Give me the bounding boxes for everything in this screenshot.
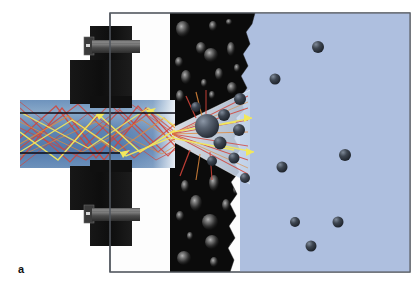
bubble — [181, 180, 189, 192]
medium-sheen — [240, 13, 410, 272]
particle — [312, 41, 324, 53]
bubble — [190, 195, 202, 211]
bubble — [209, 21, 217, 31]
optical-fiber-light-guide — [20, 100, 175, 168]
panel-label-a: a — [18, 264, 24, 275]
bubble — [176, 90, 184, 102]
scientific-diagram-svg — [0, 0, 420, 293]
aqueous-medium-region — [240, 13, 410, 272]
particle — [306, 241, 317, 252]
bubble — [234, 64, 240, 72]
bolt-slot — [86, 212, 90, 215]
bubble — [209, 175, 219, 191]
bubble — [175, 57, 183, 67]
particle — [191, 102, 201, 112]
particle — [229, 153, 240, 164]
bubble — [222, 199, 230, 211]
bolt-highlight — [92, 209, 140, 211]
clamp-lower-foot — [90, 160, 132, 172]
particle — [234, 93, 246, 105]
bolt-highlight — [92, 41, 140, 43]
bubble — [227, 82, 237, 94]
particle — [218, 109, 230, 121]
bubble — [177, 251, 191, 265]
bolt-slot — [86, 44, 90, 47]
bubble — [226, 19, 232, 25]
bubble — [227, 42, 235, 56]
particle-large — [195, 114, 219, 138]
clamp-upper-foot — [90, 96, 132, 108]
particle — [214, 137, 227, 150]
bubble — [176, 211, 184, 221]
bubble — [176, 21, 190, 37]
bubble — [210, 257, 218, 267]
bubble — [202, 214, 218, 230]
bubble — [209, 91, 215, 99]
particle — [270, 74, 281, 85]
particle — [240, 173, 250, 183]
particle — [233, 124, 245, 136]
bubble — [187, 232, 193, 240]
particle — [339, 149, 351, 161]
clamp-lower-arm — [70, 166, 132, 210]
bubble — [201, 79, 207, 87]
bubble — [181, 70, 191, 84]
particle — [207, 156, 217, 166]
particle — [277, 162, 288, 173]
bubble — [204, 48, 218, 62]
bubble — [196, 42, 206, 54]
particle — [333, 217, 344, 228]
figure-panel-a: a — [0, 0, 420, 293]
bubble — [205, 235, 219, 249]
bubble — [215, 68, 223, 80]
particle — [290, 217, 300, 227]
